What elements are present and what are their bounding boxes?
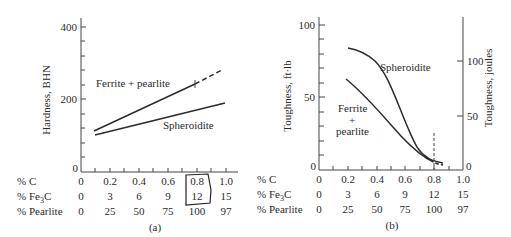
y-tick-0: 0 [311, 160, 317, 172]
y-ticks [81, 27, 86, 157]
svg-text:25: 25 [105, 205, 117, 217]
svg-text:0.4: 0.4 [132, 175, 146, 187]
label-spheroidite: Spheroidite [163, 119, 214, 131]
svg-text:0.6: 0.6 [398, 173, 412, 185]
x-row-labels: % C % Fe3C % Pearlite [17, 175, 63, 217]
y-axis-label: Hardness, BHN [40, 65, 52, 135]
figure: 400 200 0 Hardness, BHN Ferrite + pearli… [0, 0, 511, 237]
svg-text:75: 75 [163, 205, 175, 217]
row-fe3c-values: 0 3 6 9 12 15 [78, 190, 232, 202]
x-ticks [95, 168, 226, 172]
svg-text:0: 0 [78, 190, 84, 202]
svg-text:3: 3 [345, 188, 351, 200]
row-pearlite-values: 0 25 50 75 100 97 [316, 203, 469, 215]
x-ticks [333, 166, 449, 170]
svg-text:12: 12 [192, 190, 203, 202]
y-axis-label-left: Toughness, ft·lb [281, 60, 293, 132]
label-pearlite: pearlite [336, 125, 369, 137]
y-ticks-right [457, 61, 463, 116]
svg-text:0.8: 0.8 [427, 173, 441, 185]
svg-text:3: 3 [107, 190, 113, 202]
svg-text:9: 9 [165, 190, 171, 202]
svg-text:0: 0 [78, 175, 84, 187]
svg-text:75: 75 [400, 203, 412, 215]
svg-text:0.4: 0.4 [370, 173, 384, 185]
y-axis-label-right: Toughness, joules [482, 49, 494, 128]
svg-text:1.0: 1.0 [219, 175, 233, 187]
y-ticks-left [319, 25, 325, 155]
svg-text:25: 25 [343, 203, 355, 215]
row-label-fe3c: % Fe3C [17, 190, 51, 205]
svg-text:1.0: 1.0 [456, 173, 470, 185]
row-fe3c-values: 0 3 6 9 12 15 [316, 188, 469, 200]
svg-text:0: 0 [316, 173, 322, 185]
y-tick-400: 400 [61, 21, 78, 33]
y-right-tick-50: 50 [467, 110, 479, 122]
svg-text:0.2: 0.2 [341, 173, 355, 185]
label-spheroidite: Spheroidite [380, 61, 431, 73]
panel-label-b: (b) [386, 219, 399, 232]
row-label-carbon: % C [17, 175, 36, 187]
svg-text:0.8: 0.8 [190, 175, 204, 187]
y-tick-50: 50 [304, 91, 316, 103]
svg-text:6: 6 [374, 188, 380, 200]
y-tick-100: 100 [299, 19, 316, 31]
series-ferrite-pearlite-extension [195, 70, 222, 84]
svg-text:97: 97 [458, 203, 470, 215]
svg-text:15: 15 [221, 190, 233, 202]
row-pearlite-values: 0 25 50 75 100 97 [78, 205, 232, 217]
svg-text:50: 50 [372, 203, 384, 215]
row-label-carbon: % C [257, 173, 276, 185]
svg-text:15: 15 [458, 188, 470, 200]
svg-text:50: 50 [134, 205, 146, 217]
svg-text:0: 0 [316, 188, 322, 200]
label-ferrite: Ferrite [338, 102, 367, 114]
y-tick-200: 200 [61, 93, 78, 105]
svg-text:0: 0 [78, 205, 84, 217]
svg-text:0.6: 0.6 [161, 175, 175, 187]
svg-text:0.2: 0.2 [103, 175, 117, 187]
row-carbon-values: 0 0.2 0.4 0.6 0.8 1.0 [316, 173, 470, 185]
panel-label-a: (a) [149, 221, 162, 234]
row-label-pearlite: % Pearlite [17, 205, 63, 217]
row-label-fe3c: % Fe3C [257, 188, 291, 203]
svg-text:9: 9 [402, 188, 408, 200]
svg-text:12: 12 [429, 188, 440, 200]
label-ferrite-pearlite: Ferrite + pearlite [96, 77, 170, 89]
svg-text:97: 97 [221, 205, 233, 217]
panel-a-hardness-chart: 400 200 0 Hardness, BHN Ferrite + pearli… [17, 18, 238, 234]
y-right-tick-0: 0 [466, 160, 472, 172]
panel-b-toughness-chart: 100 50 0 100 50 0 Toughness, ft·lb Tough… [257, 17, 494, 232]
svg-text:100: 100 [426, 203, 443, 215]
row-label-pearlite: % Pearlite [257, 203, 303, 215]
y-tick-0: 0 [73, 162, 79, 174]
x-row-labels: % C % Fe3C % Pearlite [257, 173, 303, 215]
svg-text:0: 0 [316, 203, 322, 215]
svg-text:6: 6 [136, 190, 142, 202]
svg-text:100: 100 [189, 205, 206, 217]
